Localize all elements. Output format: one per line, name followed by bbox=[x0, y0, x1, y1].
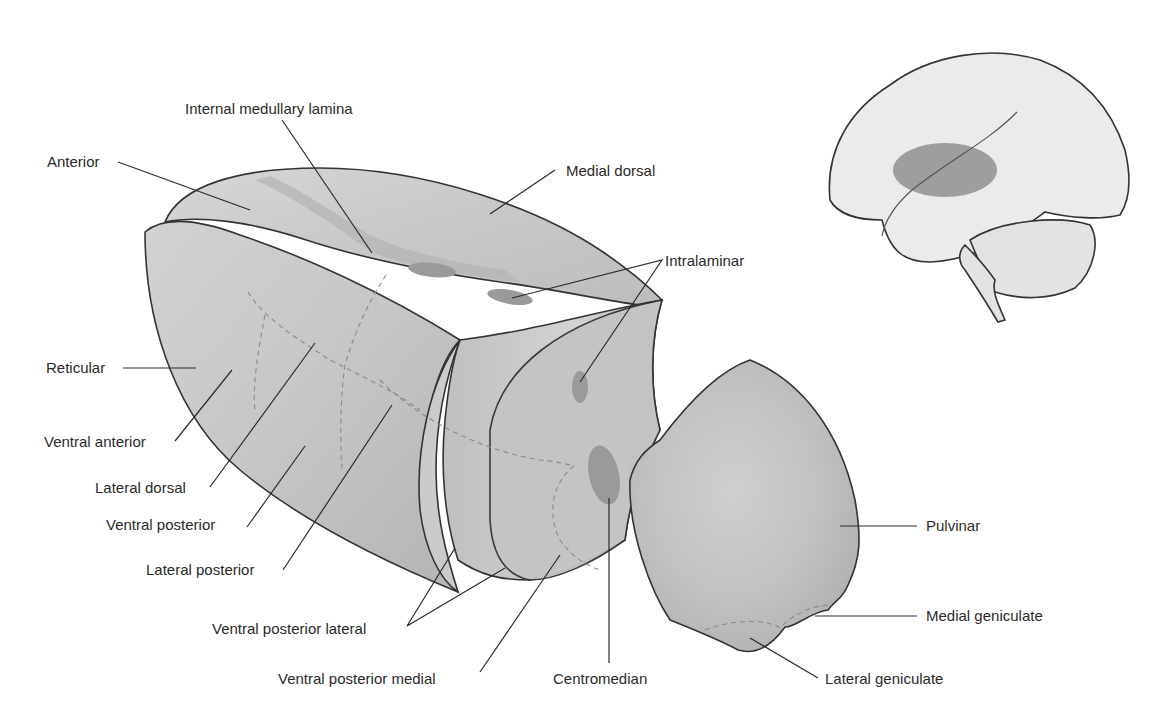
label-ventral-anterior: Ventral anterior bbox=[44, 433, 146, 450]
intralaminar-spot-3 bbox=[572, 371, 588, 403]
label-intralaminar: Intralaminar bbox=[665, 252, 744, 269]
thalamus-body bbox=[145, 168, 662, 592]
intralaminar-spot-2 bbox=[486, 286, 534, 308]
label-pulvinar: Pulvinar bbox=[926, 517, 980, 534]
label-lateral-posterior: Lateral posterior bbox=[146, 561, 254, 578]
label-lateral-dorsal: Lateral dorsal bbox=[95, 479, 186, 496]
label-centromedian: Centromedian bbox=[553, 670, 647, 687]
label-ventral-posterior-lateral: Ventral posterior lateral bbox=[212, 620, 366, 637]
lateral-surface bbox=[145, 221, 460, 592]
label-anterior: Anterior bbox=[47, 153, 100, 170]
pulvinar-body bbox=[630, 360, 859, 652]
leader-medial-dorsal bbox=[490, 170, 555, 214]
leader-lateral-geniculate bbox=[750, 638, 818, 678]
label-internal-medullary-lamina: Internal medullary lamina bbox=[185, 100, 353, 117]
thalamus-location-highlight bbox=[893, 143, 997, 197]
label-ventral-posterior-medial: Ventral posterior medial bbox=[278, 670, 436, 687]
label-reticular: Reticular bbox=[46, 359, 105, 376]
thalamus-diagram: Internal medullary lamina Anterior Media… bbox=[0, 0, 1172, 721]
inset-brain bbox=[829, 53, 1129, 322]
pulvinar-shape bbox=[630, 360, 859, 652]
label-medial-dorsal: Medial dorsal bbox=[566, 162, 655, 179]
label-medial-geniculate: Medial geniculate bbox=[926, 607, 1043, 624]
label-ventral-posterior: Ventral posterior bbox=[106, 516, 215, 533]
label-lateral-geniculate: Lateral geniculate bbox=[825, 670, 943, 687]
